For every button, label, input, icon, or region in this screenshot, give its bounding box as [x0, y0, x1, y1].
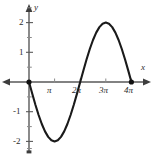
- y-tick-label-2: 2: [19, 18, 24, 27]
- curve-right-endpoint-marker: [129, 79, 134, 84]
- x-axis-left-arrow-icon: [2, 79, 10, 86]
- sine-graph-figure: y x π 2π 3π 4π 2 1 -1 -2: [0, 0, 153, 157]
- x-tick-label-2pi: 2π: [72, 86, 81, 95]
- y-axis-label: y: [34, 3, 38, 12]
- x-tick-label-4pi: 4π: [124, 86, 133, 95]
- y-axis-bottom-cap: [27, 150, 32, 153]
- y-tick-label-minus-1: -1: [13, 107, 21, 116]
- x-tick-label-3pi: 3π: [99, 86, 108, 95]
- x-tick-label-pi: π: [47, 86, 52, 95]
- x-axis-label: x: [141, 63, 145, 72]
- curve-origin-point-marker: [26, 79, 31, 84]
- y-tick-label-minus-2: -2: [13, 137, 21, 146]
- x-axis-right-arrow-icon: [143, 79, 151, 86]
- y-tick-label-1: 1: [19, 48, 24, 57]
